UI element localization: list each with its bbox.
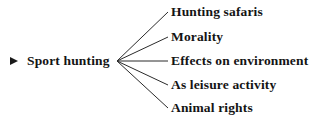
branch-label-effects-on-environment: Effects on environment [171,52,308,70]
branch-label-hunting-safaris: Hunting safaris [171,3,263,21]
branch-label-morality: Morality [171,28,223,46]
branch-line-4 [117,61,168,108]
diagram-canvas: Sport hunting Hunting safaris Morality E… [0,0,311,121]
branch-line-0 [117,12,168,61]
branch-line-1 [117,37,168,61]
root-node: Sport hunting [10,50,110,72]
branch-line-3 [117,61,168,85]
triangle-bullet-icon [10,57,18,65]
branch-label-animal-rights: Animal rights [171,99,253,117]
branch-label-as-leisure-activity: As leisure activity [171,76,276,94]
root-node-label: Sport hunting [27,53,110,69]
